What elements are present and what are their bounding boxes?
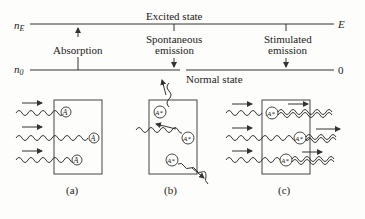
excited-state-label: Excited state — [146, 10, 203, 22]
lower-energy-label: 0 — [338, 64, 344, 76]
upper-level-label: nE — [14, 19, 25, 33]
panel-b: A* A* A* (b) — [136, 80, 208, 197]
panel-c: A* A* A* (c) — [226, 100, 340, 197]
panel-c-caption: (c) — [278, 184, 291, 197]
coherent-wave-icon — [278, 113, 332, 118]
energy-level-diagram: nE E Excited state n0 0 Normal state Abs… — [0, 0, 365, 219]
panel-a: A A A (a) — [16, 100, 102, 197]
photon-wave-icon — [16, 158, 76, 163]
svg-text:A*: A* — [280, 157, 289, 165]
spontaneous-transition: Spontaneous emission — [146, 24, 202, 67]
photon-wave-icon — [226, 158, 286, 163]
stimulated-transition: Stimulated emission — [264, 24, 312, 67]
absorption-label: Absorption — [53, 44, 103, 56]
upper-energy-label: E — [337, 18, 345, 30]
svg-text:A*: A* — [266, 110, 275, 118]
absorption-transition: Absorption — [53, 28, 103, 70]
panel-b-caption: (b) — [164, 184, 177, 197]
photon-wave-icon — [226, 111, 262, 116]
svg-text:A: A — [62, 108, 68, 117]
svg-text:A*: A* — [154, 109, 163, 117]
svg-text:A*: A* — [182, 135, 191, 143]
panel-a-caption: (a) — [66, 184, 79, 197]
svg-text:A*: A* — [166, 157, 175, 165]
photon-wave-icon — [16, 111, 68, 116]
spontaneous-label-line2: emission — [155, 44, 195, 56]
photon-wave-icon — [167, 83, 171, 107]
lower-level-label: n0 — [14, 63, 24, 77]
emitted-arrow-icon — [192, 168, 204, 178]
photon-wave-icon — [16, 136, 88, 141]
svg-text:A*: A* — [294, 135, 303, 143]
emitted-arrow-icon — [162, 80, 166, 95]
stimulated-label-line2: emission — [268, 44, 308, 56]
svg-text:A: A — [73, 156, 79, 165]
normal-state-label: Normal state — [186, 73, 243, 85]
coherent-wave-icon — [292, 157, 334, 162]
svg-text:A: A — [90, 134, 96, 143]
